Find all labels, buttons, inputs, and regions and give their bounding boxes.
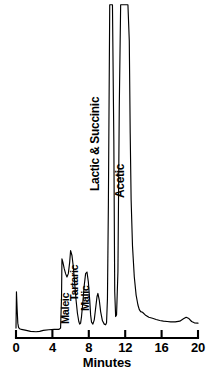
x-axis-group	[16, 330, 198, 338]
chromatogram-plot	[0, 0, 215, 380]
x-axis-tick-label: 0	[12, 341, 19, 354]
x-axis-tick-label: 4	[49, 341, 56, 354]
x-axis-tick-label: 8	[85, 341, 92, 354]
x-axis-ticks	[16, 330, 198, 338]
peak-label-acetic: Acetic	[114, 164, 126, 198]
signal-trace-group	[16, 5, 198, 332]
peak-label-lactic-succinic: Lactic & Succinic	[89, 97, 101, 191]
peak-label-malic: Malic	[80, 285, 91, 311]
x-axis-tick-label: 12	[118, 341, 132, 354]
x-axis-title: Minutes	[83, 355, 131, 370]
x-axis-tick-label: 20	[191, 341, 205, 354]
x-axis-tick-label: 16	[155, 341, 169, 354]
chromatogram-figure: 048121620 Minutes Maleic Tartaric Malic …	[0, 0, 215, 380]
detector-signal-trace	[16, 5, 198, 332]
